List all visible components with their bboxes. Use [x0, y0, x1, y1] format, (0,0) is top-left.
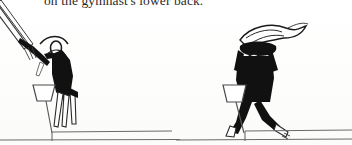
floor-line	[0, 140, 180, 141]
illustration-panel-left	[0, 0, 180, 145]
illustration-panel-right	[176, 0, 352, 145]
uneven-bar-icon	[0, 0, 33, 49]
scanned-page: on the gymnast's lower back.	[0, 0, 352, 145]
floor-line	[176, 139, 352, 140]
gymnast-legs	[226, 100, 290, 139]
gymnast-legs	[54, 86, 78, 127]
bar-stand	[33, 85, 55, 133]
